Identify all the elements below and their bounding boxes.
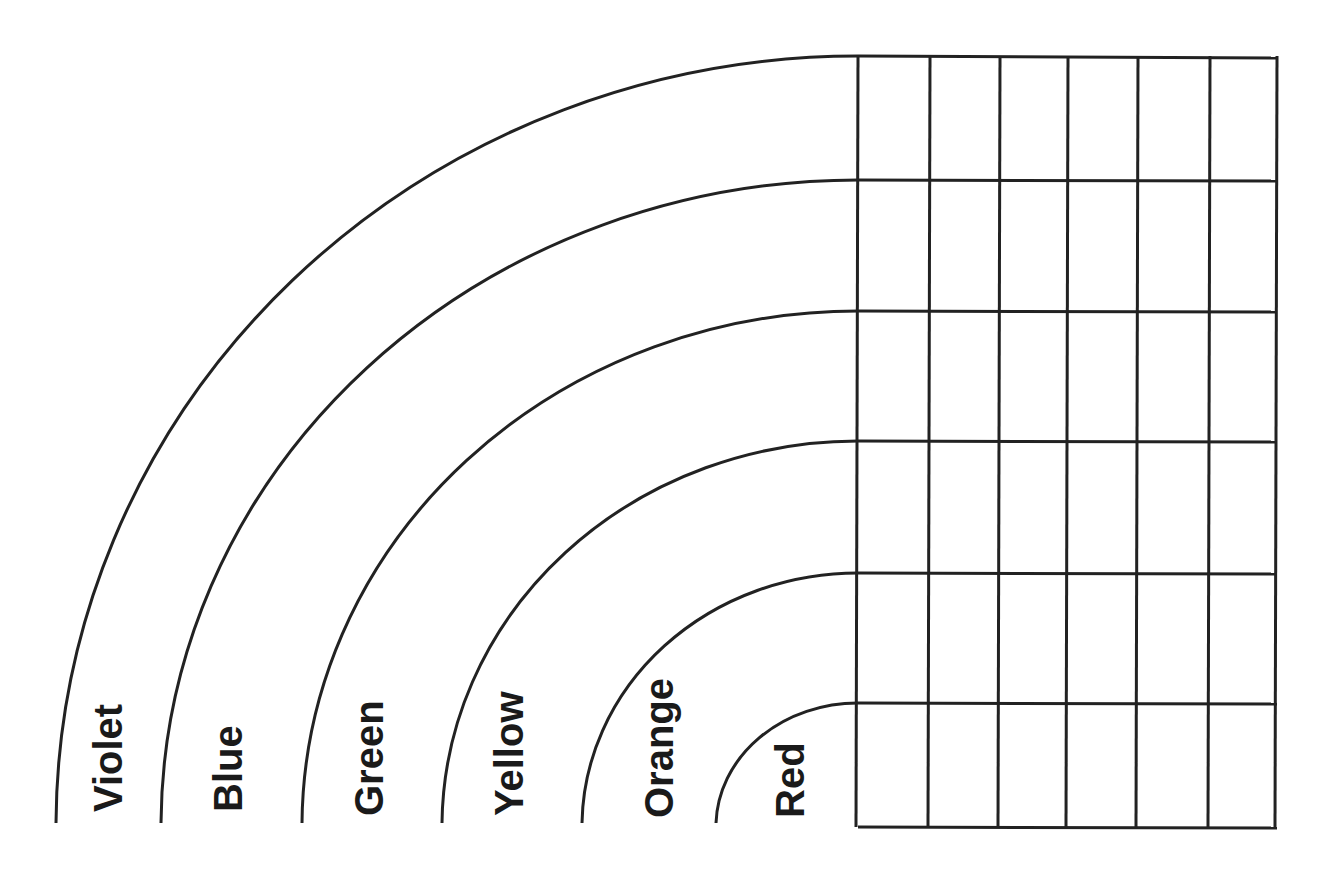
grid-cell-blue-5 — [1140, 182, 1208, 309]
grid-cell-red-6 — [1212, 705, 1275, 825]
band-label-orange: Orange — [637, 678, 682, 818]
grid-column-line — [1066, 56, 1068, 827]
band-label-green: Green — [347, 700, 392, 816]
grid-cell-blue-3 — [1002, 182, 1066, 309]
grid-cell-orange-3 — [1002, 575, 1066, 701]
grid-column-line — [856, 56, 858, 827]
grid-cell-green-6 — [1212, 313, 1275, 439]
band-label-yellow: Yellow — [487, 692, 532, 817]
grid-cell-green-1 — [860, 313, 928, 439]
grid-cell-yellow-4 — [1070, 443, 1136, 571]
grid-cell-green-4 — [1070, 313, 1136, 439]
grid-cell-blue-1 — [860, 182, 928, 309]
grid-cell-red-3 — [1002, 705, 1066, 825]
grid-row-line — [858, 827, 1277, 828]
grid-cell-red-1 — [860, 705, 928, 825]
grid-column-line — [928, 56, 930, 827]
grid-cell-red-4 — [1070, 705, 1136, 825]
grid-cell-green-2 — [932, 313, 998, 439]
grid-cell-green-3 — [1002, 313, 1066, 439]
grid-cell-violet-6 — [1212, 58, 1275, 178]
grid-cell-violet-5 — [1140, 58, 1208, 178]
band-arc-orange — [582, 573, 858, 823]
grid-cell-violet-1 — [860, 58, 928, 178]
grid-cell-yellow-6 — [1212, 443, 1275, 571]
grid-cell-orange-5 — [1140, 575, 1208, 701]
grid-cell-violet-2 — [932, 58, 998, 178]
grid-column-line — [1208, 56, 1210, 827]
grid-cell-red-2 — [932, 705, 998, 825]
grid-cell-yellow-3 — [1002, 443, 1066, 571]
grid-column-line — [1275, 56, 1277, 827]
tally-grid — [856, 56, 1277, 828]
grid-column-line — [1136, 56, 1138, 827]
grid-cell-violet-3 — [1002, 58, 1066, 178]
band-label-blue: Blue — [206, 725, 251, 812]
rainbow-arcs — [56, 56, 858, 823]
grid-cell-violet-4 — [1070, 58, 1136, 178]
grid-cell-green-5 — [1140, 313, 1208, 439]
grid-cell-orange-2 — [932, 575, 998, 701]
grid-cell-yellow-5 — [1140, 443, 1208, 571]
grid-cell-yellow-1 — [860, 443, 928, 571]
grid-cell-blue-4 — [1070, 182, 1136, 309]
band-label-red: Red — [768, 742, 813, 818]
grid-cell-red-5 — [1140, 705, 1208, 825]
band-label-violet: Violet — [86, 704, 131, 812]
grid-cell-blue-2 — [932, 182, 998, 309]
band-arc-violet — [56, 56, 858, 823]
grid-column-line — [998, 56, 1000, 827]
grid-cell-blue-6 — [1212, 182, 1275, 309]
grid-cell-orange-6 — [1212, 575, 1275, 701]
grid-cell-orange-4 — [1070, 575, 1136, 701]
grid-cell-yellow-2 — [932, 443, 998, 571]
grid-cell-orange-1 — [860, 575, 928, 701]
